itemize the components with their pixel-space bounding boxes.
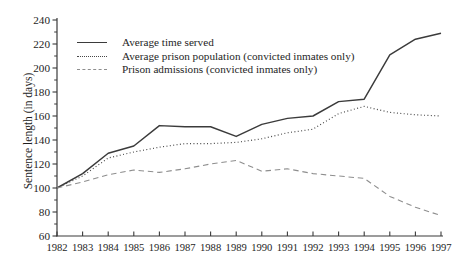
y-tick-label: 240 (33, 14, 50, 26)
y-tick-label: 120 (33, 158, 50, 170)
y-tick-label: 140 (33, 134, 50, 146)
x-tick-label: 1986 (149, 242, 170, 253)
y-tick-label: 160 (33, 110, 50, 122)
x-tick-label: 1988 (200, 242, 221, 253)
y-tick-label: 220 (33, 38, 50, 50)
x-tick-label: 1982 (46, 242, 67, 253)
x-tick-label: 1990 (251, 242, 272, 253)
legend-label: Prison admissions (convicted inmates onl… (122, 64, 317, 75)
legend-item-average-time-served: Average time served (77, 37, 355, 48)
y-tick-label: 100 (33, 182, 50, 194)
legend-item-average-prison-population: Average prison population (convicted inm… (77, 51, 355, 62)
y-tick-label: 200 (33, 62, 50, 74)
legend-label: Average prison population (convicted inm… (122, 51, 355, 62)
x-tick-label: 1985 (123, 242, 144, 253)
series-line-dotted (57, 106, 441, 188)
legend-item-prison-admissions: Prison admissions (convicted inmates onl… (77, 64, 355, 75)
chart-legend: Average time served Average prison popul… (77, 37, 355, 75)
sentence-length-line-chart: 6080100120140160180200220240198219831984… (0, 0, 465, 273)
x-tick-label: 1994 (354, 242, 376, 253)
y-tick-label: 80 (39, 206, 51, 218)
x-tick-label: 1996 (405, 242, 426, 253)
legend-label: Average time served (122, 37, 214, 48)
x-tick-label: 1987 (174, 242, 195, 253)
legend-line-sample-solid (77, 42, 107, 43)
x-tick-label: 1984 (98, 242, 120, 253)
x-tick-label: 1989 (226, 242, 247, 253)
legend-line-sample-dashed (77, 69, 107, 70)
x-tick-label: 1993 (328, 242, 349, 253)
series-line-dashed (57, 160, 441, 215)
y-axis-title: Sentence length (in days) (22, 56, 34, 206)
x-tick-label: 1995 (379, 242, 400, 253)
y-tick-label: 180 (33, 86, 50, 98)
x-tick-label: 1983 (72, 242, 93, 253)
x-tick-label: 1991 (277, 242, 298, 253)
x-tick-label: 1992 (302, 242, 323, 253)
x-tick-label: 1997 (430, 242, 451, 253)
legend-line-sample-dotted (77, 56, 107, 57)
y-tick-label: 60 (39, 230, 51, 242)
